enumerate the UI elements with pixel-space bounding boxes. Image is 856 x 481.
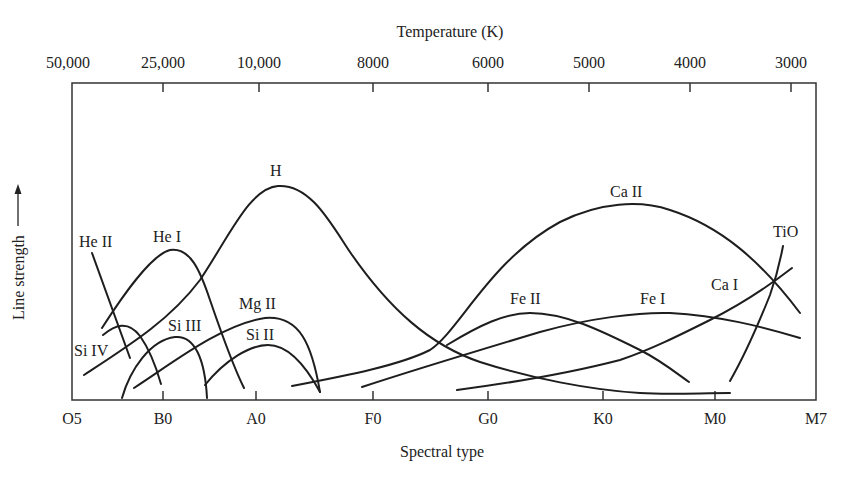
bottom-tick-label: F0 [365,410,382,427]
label-fe-ii: Fe II [510,290,541,307]
top-axis-tick-labels: 50,000 25,000 10,000 8000 6000 5000 4000… [46,54,807,71]
curve-h [84,186,730,394]
bottom-tick-label: A0 [246,410,266,427]
label-tio: TiO [773,223,798,240]
curve-ca-i [457,268,792,390]
bottom-axis-tick-labels: O5 B0 A0 F0 G0 K0 M0 M7 [62,410,827,427]
top-tick-label: 8000 [357,54,389,71]
bottom-tick-label: G0 [478,410,498,427]
plot-frame [72,83,816,400]
label-he-i: He I [153,228,181,245]
top-axis-ticks [163,83,791,92]
bottom-tick-label: K0 [593,410,613,427]
top-tick-label: 25,000 [141,54,185,71]
label-si-ii: Si II [246,326,274,343]
label-he-ii: He II [79,233,112,250]
spectral-curves [84,186,800,398]
bottom-tick-label: B0 [154,410,173,427]
top-tick-label: 5000 [573,54,605,71]
label-ca-i: Ca I [711,276,738,293]
top-tick-label: 6000 [472,54,504,71]
y-axis-title-group: Line strength [10,235,28,320]
up-arrow-icon [15,184,22,226]
label-h: H [270,162,282,179]
top-axis-title: Temperature (K) [397,23,504,41]
y-axis-title: Line strength [10,235,28,320]
label-si-iv: Si IV [74,342,109,359]
label-si-iii: Si III [168,317,201,334]
top-tick-label: 10,000 [237,54,281,71]
bottom-tick-label: M0 [704,410,726,427]
top-tick-label: 50,000 [46,54,90,71]
bottom-tick-label: M7 [805,410,827,427]
curve-ca-ii [292,204,800,386]
bottom-tick-label: O5 [62,410,82,427]
curve-tio [730,246,783,381]
label-ca-ii: Ca II [610,183,642,200]
label-fe-i: Fe I [640,290,665,307]
top-tick-label: 3000 [775,54,807,71]
x-axis-title: Spectral type [400,443,484,461]
top-tick-label: 4000 [674,54,706,71]
label-mg-ii: Mg II [239,295,276,313]
spectral-line-strength-chart: Temperature (K) 50,000 25,000 10,000 800… [0,0,856,481]
